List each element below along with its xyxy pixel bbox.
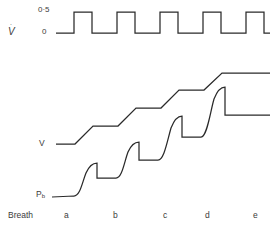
- volume-trace: [56, 73, 270, 144]
- respiratory-waveform-figure: ˙ V 0·5 0 V Pb Breath a b c d e: [0, 0, 271, 229]
- waveform-canvas: [0, 0, 271, 229]
- pressure-trace: [52, 87, 270, 197]
- flow-trace: [56, 12, 270, 33]
